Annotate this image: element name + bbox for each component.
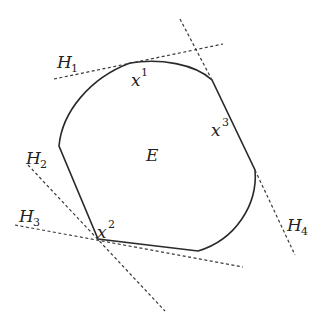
svg-text:x: x — [211, 120, 221, 140]
svg-text:4: 4 — [301, 225, 308, 238]
label-x3: x 3 — [211, 116, 229, 140]
svg-text:E: E — [145, 145, 159, 165]
svg-text:2: 2 — [108, 218, 115, 231]
label-x2: x 2 — [97, 218, 115, 242]
label-x1: x 1 — [131, 66, 148, 90]
label-h2: H 2 — [25, 148, 47, 171]
svg-text:x: x — [97, 222, 107, 242]
convex-set-diagram: H 1 x 1 x 3 E H 2 H 3 x 2 H 4 — [0, 0, 325, 327]
label-e: E — [145, 145, 159, 165]
label-h3: H 3 — [18, 206, 40, 229]
svg-text:x: x — [131, 70, 141, 90]
hyperplane-h4-line — [255, 170, 295, 255]
diagram-canvas: H 1 x 1 x 3 E H 2 H 3 x 2 H 4 — [0, 0, 325, 327]
label-h1: H 1 — [56, 52, 78, 75]
svg-text:1: 1 — [141, 66, 148, 79]
hyperplane-h3-line — [15, 225, 243, 267]
svg-text:1: 1 — [71, 62, 78, 75]
svg-text:3: 3 — [33, 216, 40, 229]
svg-text:2: 2 — [40, 158, 47, 171]
hyperplane-h-upper-line — [180, 19, 212, 80]
label-h4: H 4 — [286, 215, 308, 238]
svg-text:3: 3 — [222, 116, 229, 129]
